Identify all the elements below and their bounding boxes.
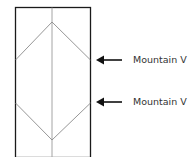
paper-outline <box>16 8 91 158</box>
fold-diagram <box>0 0 191 157</box>
bottom-mountain-v-fold <box>16 103 91 140</box>
mountain-v-label-top: Mountain V <box>133 54 187 65</box>
arrow-left-icon <box>96 56 122 65</box>
top-mountain-v-fold <box>16 22 91 60</box>
mountain-v-label-bottom: Mountain V <box>133 96 187 107</box>
arrow-left-icon <box>96 98 122 107</box>
